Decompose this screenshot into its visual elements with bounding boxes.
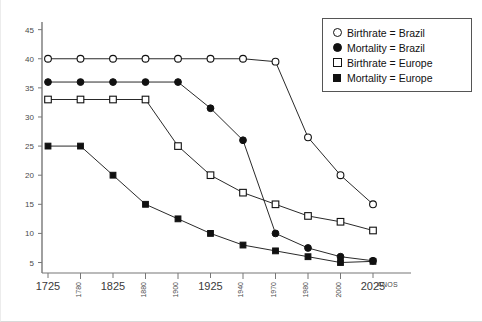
x-axis: 1725178018251880190019251940197019802000… [36, 273, 411, 298]
data-point-marker [77, 79, 84, 86]
y-tick-label: 25 [25, 142, 34, 151]
data-point-marker [77, 55, 84, 62]
data-point-marker [207, 105, 214, 112]
data-point-marker [110, 172, 116, 178]
data-point-marker [240, 137, 247, 144]
data-point-marker [337, 218, 344, 225]
data-point-marker [175, 55, 182, 62]
y-tick-label: 30 [25, 113, 34, 122]
data-point-marker [110, 96, 117, 103]
x-tick-label: 1980 [302, 282, 309, 298]
data-point-marker [240, 189, 247, 196]
data-point-marker [370, 258, 376, 264]
x-tick-label: 1725 [36, 280, 60, 292]
chart-legend: Birthrate = Brazil Mortality = Brazil Bi… [322, 18, 472, 92]
legend-item: Birthrate = Brazil [330, 25, 464, 40]
data-point-marker [337, 172, 344, 179]
y-tick-label: 45 [25, 26, 34, 35]
data-point-marker [305, 134, 312, 141]
data-point-marker [338, 260, 344, 266]
x-axis-unit-label: ANOS [377, 281, 398, 288]
y-tick-label: 40 [25, 55, 34, 64]
x-tick-label: 1880 [140, 282, 147, 298]
x-tick-label: 1940 [237, 282, 244, 298]
data-point-marker [337, 253, 344, 260]
data-point-marker [272, 201, 279, 208]
x-tick-label: 1900 [172, 282, 179, 298]
x-tick-label: 1780 [75, 282, 82, 298]
y-tick-label: 20 [25, 171, 34, 180]
legend-marker-square-open-icon [330, 58, 344, 67]
data-point-marker [305, 245, 312, 252]
x-tick-label: 1925 [198, 280, 222, 292]
legend-item-label: Birthrate = Brazil [347, 27, 425, 39]
legend-item: Birthrate = Europe [330, 55, 464, 70]
data-point-marker [142, 55, 149, 62]
y-tick-label: 35 [25, 84, 34, 93]
data-point-marker [175, 143, 182, 150]
data-point-marker [207, 172, 214, 179]
legend-item: Mortality = Europe [330, 70, 464, 85]
chart-figure: 51015202530354045 1725178018251880190019… [0, 0, 482, 322]
data-point-marker [240, 55, 247, 62]
y-axis: 51015202530354045 [25, 22, 42, 273]
x-tick-label: 1970 [270, 282, 277, 298]
y-tick-label: 15 [25, 200, 34, 209]
data-point-marker [143, 201, 149, 207]
data-point-marker [272, 58, 279, 65]
data-point-marker [45, 96, 52, 103]
data-point-marker [78, 143, 84, 149]
data-point-marker [142, 96, 149, 103]
legend-marker-square-filled-icon [330, 74, 344, 82]
data-point-marker [77, 96, 84, 103]
data-point-marker [272, 230, 279, 237]
series-line [48, 146, 373, 262]
y-tick-label: 5 [30, 259, 35, 268]
legend-item: Mortality = Brazil [330, 40, 464, 55]
data-point-marker [45, 143, 51, 149]
x-tick-label: 2000 [335, 282, 342, 298]
data-point-marker [142, 79, 149, 86]
legend-item-label: Mortality = Brazil [347, 42, 425, 54]
data-point-marker [207, 55, 214, 62]
data-point-marker [110, 79, 117, 86]
data-point-marker [45, 55, 52, 62]
data-point-marker [305, 213, 312, 220]
data-point-marker [370, 201, 377, 208]
data-point-marker [45, 79, 52, 86]
data-point-marker [208, 231, 214, 237]
data-point-marker [240, 242, 246, 248]
legend-marker-circle-filled-icon [330, 43, 344, 52]
data-point-marker [175, 216, 181, 222]
data-point-marker [370, 227, 377, 234]
data-point-marker [305, 254, 311, 260]
legend-item-label: Birthrate = Europe [347, 57, 433, 69]
data-point-marker [175, 79, 182, 86]
data-point-marker [110, 55, 117, 62]
legend-marker-circle-open-icon [330, 28, 344, 37]
data-point-marker [273, 248, 279, 254]
series-line [48, 100, 373, 231]
y-tick-label: 10 [25, 229, 34, 238]
legend-item-label: Mortality = Europe [347, 72, 433, 84]
x-tick-label: 1825 [101, 280, 125, 292]
